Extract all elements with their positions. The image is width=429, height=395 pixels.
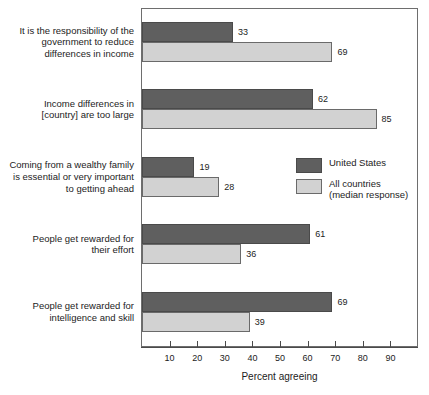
bar-value-label: 69 [337,42,347,62]
bar-all-countries [142,244,241,264]
bar-value-label: 62 [318,89,328,109]
bar-all-countries [142,42,332,62]
x-axis-tick-label: 70 [330,353,340,363]
bar-all-countries [142,312,250,332]
category-label: People get rewarded for their effort [0,233,134,256]
legend-item: United States [296,157,422,173]
category-label: It is the responsibility of the governme… [0,25,134,60]
category-label: Income differences in [country] are too … [0,98,134,121]
legend-item: All countries (median response) [296,178,422,201]
bar-united-states [142,89,313,109]
bar-value-label: 39 [255,312,265,332]
x-axis-tick-label: 90 [385,353,395,363]
bar-all-countries [142,177,219,197]
x-axis: 102030405060708090 [141,347,418,350]
x-axis-tick-label: 50 [275,353,285,363]
x-axis-tick [308,341,309,348]
x-axis-tick [390,341,391,348]
x-axis-tick [170,341,171,348]
x-axis-tick-label: 40 [247,353,257,363]
chart-legend: United StatesAll countries (median respo… [296,157,422,206]
bar-united-states [142,157,194,177]
bar-value-label: 19 [199,157,209,177]
x-axis-tick [197,341,198,348]
x-axis-tick-label: 60 [303,353,313,363]
x-axis-tick [252,341,253,348]
bar-united-states [142,22,233,42]
x-axis-tick-label: 10 [165,353,175,363]
category-label: People get rewarded for intelligence and… [0,300,134,323]
x-axis-tick [363,341,364,348]
bar-united-states [142,224,310,244]
category-label-column: It is the responsibility of the governme… [0,8,134,347]
legend-label: All countries (median response) [329,178,408,201]
x-axis-tick [225,341,226,348]
x-axis-tick-label: 30 [220,353,230,363]
legend-label: United States [329,157,386,168]
category-label: Coming from a wealthy family is essentia… [0,159,134,194]
bar-value-label: 33 [238,22,248,42]
bar-chart: It is the responsibility of the governme… [0,0,429,395]
bar-value-label: 61 [315,224,325,244]
x-axis-tick [280,341,281,348]
x-axis-tick-label: 20 [192,353,202,363]
bar-value-label: 28 [224,177,234,197]
legend-swatch-all [296,179,322,194]
bar-value-label: 69 [337,292,347,312]
bar-value-label: 36 [246,244,256,264]
x-axis-tick [335,341,336,348]
x-axis-tick-label: 80 [358,353,368,363]
bar-value-label: 85 [382,109,392,129]
legend-swatch-us [296,158,322,173]
bar-united-states [142,292,332,312]
x-axis-title: Percent agreeing [141,371,418,382]
bar-all-countries [142,109,377,129]
